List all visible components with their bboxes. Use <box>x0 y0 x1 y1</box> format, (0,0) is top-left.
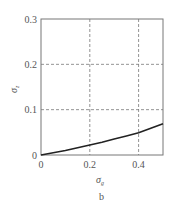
data-curve <box>41 124 163 155</box>
y-axis-label: σz <box>8 85 20 93</box>
chart: 00.10.20.3 00.20.4 σz σg b <box>0 0 174 208</box>
x-tick-label: 0.4 <box>132 159 145 170</box>
x-tick-labels: 00.20.4 <box>39 159 145 170</box>
grid-lines <box>41 19 163 155</box>
x-axis-label: σg <box>96 174 104 186</box>
y-tick-label: 0.1 <box>25 104 38 115</box>
y-tick-labels: 00.10.20.3 <box>25 14 38 161</box>
y-tick-label: 0 <box>32 150 37 161</box>
x-tick-label: 0 <box>39 159 44 170</box>
plot-frame <box>41 19 163 155</box>
figure-caption: b <box>99 191 104 202</box>
x-tick-label: 0.2 <box>84 159 97 170</box>
y-tick-label: 0.2 <box>25 59 38 70</box>
y-tick-label: 0.3 <box>25 14 38 25</box>
